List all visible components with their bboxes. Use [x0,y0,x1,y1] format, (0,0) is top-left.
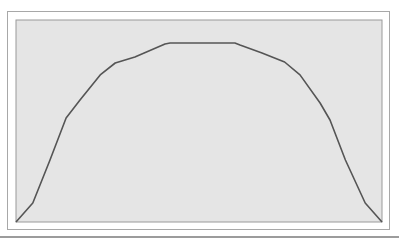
plot-area [16,20,382,222]
chart [0,0,399,241]
bottom-divider [0,236,399,238]
